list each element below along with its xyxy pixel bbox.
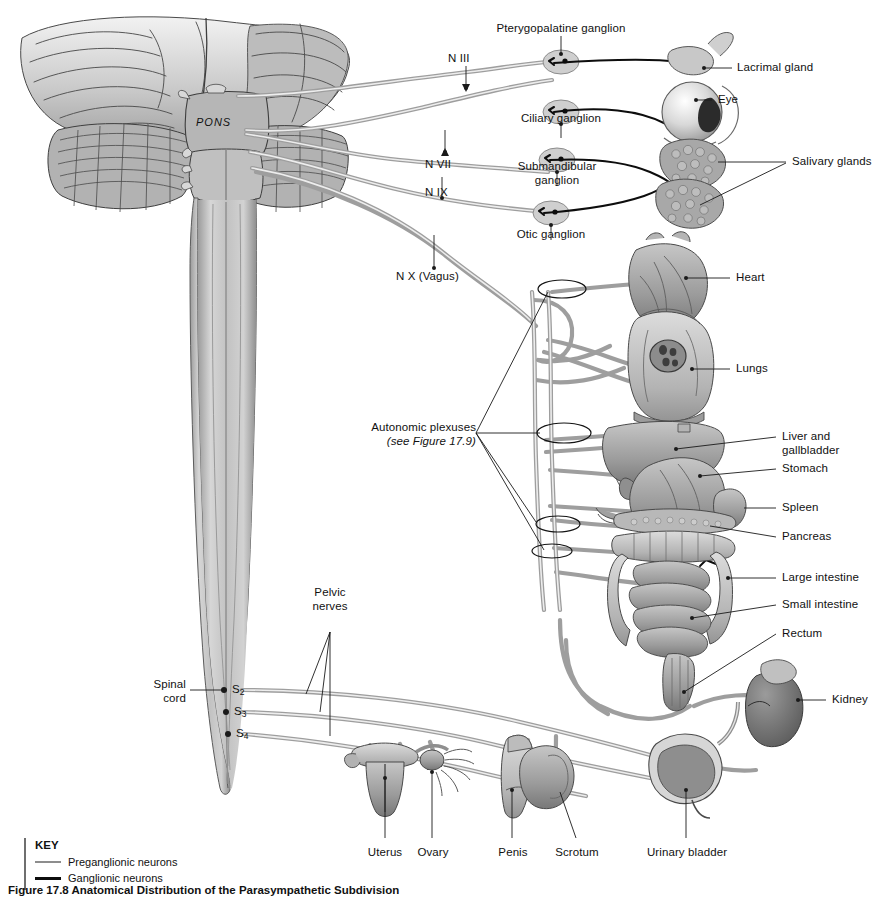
key-item-preganglionic: Preganglionic neurons: [35, 856, 239, 868]
figure-canvas: PONS N III N VII N IX N X (Vagus) Pteryg…: [0, 0, 880, 897]
organ-label-stomach: Stomach: [782, 462, 828, 475]
autonomic-plexus-rings: [532, 280, 591, 558]
preganglionic-line-swatch: [35, 861, 61, 863]
nerve-label-n9: N IX: [425, 186, 448, 199]
nerve-label-n10: N X (Vagus): [396, 270, 459, 283]
otic-ganglion-label: Otic ganglion: [491, 228, 611, 241]
salivary-glands-illustration: [656, 139, 726, 228]
organ-label-urinary-bladder: Urinary bladder: [628, 846, 746, 859]
eye-illustration: [662, 32, 738, 146]
autonomic-plexuses-label: Autonomic plexuses: [310, 421, 476, 434]
ciliary-ganglion-label: Ciliary ganglion: [481, 112, 641, 125]
organ-label-liver-line2: gallbladder: [782, 444, 839, 457]
uterus-ovary-illustration: [344, 743, 474, 816]
organ-label-lungs: Lungs: [736, 362, 768, 375]
organ-label-spleen: Spleen: [782, 501, 818, 514]
organ-label-eye: Eye: [718, 93, 738, 106]
nerve-label-n7: N VII: [425, 158, 451, 171]
key-item-preganglionic-label: Preganglionic neurons: [68, 856, 177, 868]
key-item-ganglionic: Ganglionic neurons: [35, 872, 239, 884]
pelvic-nerves-label-line1: Pelvic: [286, 586, 374, 599]
organ-label-scrotum: Scrotum: [542, 846, 612, 859]
organ-label-liver-line1: Liver and: [782, 430, 830, 443]
figure-caption: Figure 17.8 Anatomical Distribution of t…: [8, 884, 708, 896]
organ-label-kidney: Kidney: [832, 693, 868, 706]
key-title: KEY: [35, 839, 239, 851]
key-item-ganglionic-label: Ganglionic neurons: [68, 872, 163, 884]
organ-label-penis: Penis: [482, 846, 544, 859]
submandibular-ganglion-label-line2: ganglion: [487, 174, 627, 187]
nerve-label-n3: N III: [448, 52, 470, 65]
organ-label-ovary: Ovary: [400, 846, 466, 859]
anatomical-illustration: [0, 0, 880, 897]
spinal-segment-s4: S4: [236, 727, 249, 743]
kidney-illustration: [745, 660, 802, 747]
intestines-illustration: [608, 531, 735, 711]
pons-label: PONS: [196, 116, 231, 129]
organ-label-salivary-glands: Salivary glands: [792, 155, 871, 168]
organ-label-pancreas: Pancreas: [782, 530, 831, 543]
organ-label-heart: Heart: [736, 271, 765, 284]
pterygopalatine-ganglion-label: Pterygopalatine ganglion: [461, 22, 661, 35]
organ-label-lacrimal-gland: Lacrimal gland: [737, 61, 813, 74]
organ-label-large-intestine: Large intestine: [782, 571, 859, 584]
spinal-segment-s2: S2: [232, 683, 245, 699]
submandibular-ganglion-label-line1: Submandibular: [487, 160, 627, 173]
pelvic-nerves-label-line2: nerves: [286, 600, 374, 613]
lungs-illustration: [628, 309, 714, 427]
ganglionic-line-swatch: [35, 877, 61, 880]
key-legend: KEY Preganglionic neurons Ganglionic neu…: [24, 838, 239, 890]
spinal-segment-s3: S3: [234, 705, 247, 721]
pancreas-illustration: [614, 509, 736, 534]
ganglia-group: [533, 50, 579, 225]
spinal-cord-label-line2: cord: [118, 692, 186, 705]
spinal-cord-label-line1: Spinal: [118, 678, 186, 691]
organ-label-small-intestine: Small intestine: [782, 598, 858, 611]
organ-label-rectum: Rectum: [782, 627, 822, 640]
autonomic-plexuses-note: (see Figure 17.9): [310, 435, 476, 448]
